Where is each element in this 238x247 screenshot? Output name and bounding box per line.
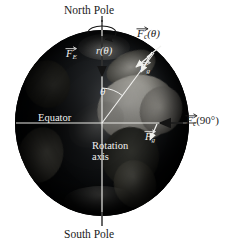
vector-arrow-icon [65, 45, 78, 50]
force-centripetal-theta-label: Fc(θ) [137, 28, 160, 41]
force-centripetal-90-label: Fc(90°) [186, 115, 219, 128]
rotation-axis-label-line2: axis [92, 151, 128, 162]
force-centripetal-90-argument: (90°) [196, 114, 219, 126]
force-gravity-upper-subscript: g [146, 67, 150, 75]
theta-angle-label: θ [100, 86, 105, 98]
north-pole-label: North Pole [64, 4, 114, 16]
radius-argument: (θ) [100, 45, 112, 56]
force-gravity-lower-label: Fg [145, 131, 155, 144]
vector-arrow-icon [139, 59, 152, 64]
vector-arrow-icon [136, 25, 150, 31]
radius-label: r(θ) [96, 45, 112, 56]
vector-arrow-icon [185, 112, 199, 118]
force-centripetal-theta-leader [147, 46, 161, 57]
equator-label: Equator [38, 112, 71, 123]
force-earth-subscript: E [72, 53, 77, 61]
south-pole-label: South Pole [64, 228, 114, 240]
rotation-axis-label-line1: Rotation [92, 140, 128, 151]
force-gravity-lower-subscript: g [151, 136, 155, 144]
force-gravity-upper-label: Fg [140, 62, 150, 75]
force-earth-label: FE [66, 48, 77, 61]
rotation-axis-label: Rotation axis [92, 140, 128, 162]
earth-rotation-force-diagram: North Pole South Pole Equator Rotation a… [0, 0, 238, 247]
vector-arrow-icon [144, 128, 157, 133]
